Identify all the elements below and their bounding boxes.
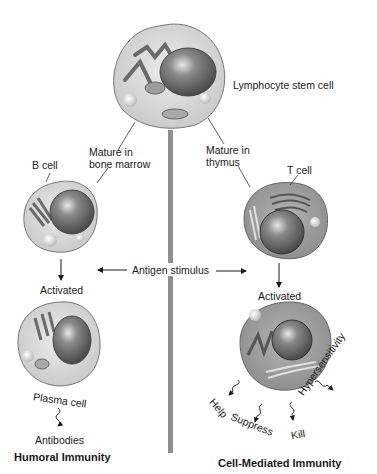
b-cell-illustration [24, 181, 97, 252]
stem-cell-illustration [114, 24, 225, 128]
label-mature-bone-marrow-2: bone marrow [89, 158, 150, 170]
label-t-activated: Activated [258, 290, 301, 302]
label-lymphocyte-stem-cell: Lymphocyte stem cell [233, 79, 334, 91]
label-kill: Kill [290, 427, 306, 441]
label-cell-mediated-immunity: Cell-Mediated Immunity [218, 457, 341, 469]
t-cell-illustration [244, 182, 327, 258]
label-mature-thymus-2: thymus [206, 156, 240, 168]
label-humoral-immunity: Humoral Immunity [14, 451, 111, 463]
label-mature-bone-marrow-1: Mature in [89, 146, 133, 158]
label-antigen-stimulus: Antigen stimulus [132, 264, 209, 276]
label-antibodies: Antibodies [35, 434, 84, 446]
label-b-activated: Activated [40, 284, 83, 296]
plasma-cell-illustration [18, 302, 100, 386]
label-mature-thymus-1: Mature in [206, 144, 250, 156]
label-t-cell: T cell [287, 164, 312, 176]
label-b-cell: B cell [32, 159, 58, 171]
